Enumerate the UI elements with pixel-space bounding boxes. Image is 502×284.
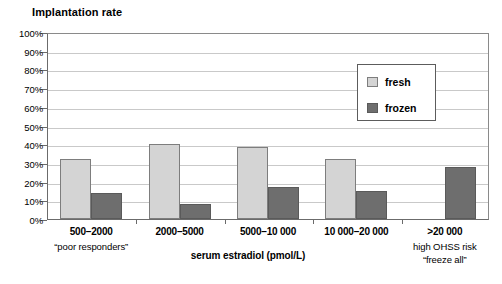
y-axis-tick-label: 70% [24,84,43,95]
plot-area [47,33,489,220]
x-axis-category-label: >20 000 [427,226,462,237]
y-axis-tick-label: 80% [24,65,43,76]
implantation-rate-bar-chart: Implantation rate freshfrozen serum estr… [0,0,502,284]
gridline [48,165,488,166]
bar-frozen-5 [445,167,476,219]
legend-label: fresh [385,76,411,88]
y-axis-tick-label: 0% [29,215,43,226]
x-axis-category-sublabel: high OHSS risk [413,241,477,252]
bar-frozen-3 [268,187,299,219]
x-axis-title: serum estradiol (pmol/L) [191,250,305,261]
gridline [48,53,488,54]
y-axis-tick-label: 40% [24,140,43,151]
x-axis-category-label: 5000–10 000 [240,226,296,237]
y-axis-tick-label: 20% [24,177,43,188]
bar-frozen-1 [91,193,122,219]
y-axis-tick-label: 60% [24,102,43,113]
chart-legend: freshfrozen [357,64,436,121]
y-axis-tick-label: 10% [24,196,43,207]
y-axis-tick-label: 90% [24,46,43,57]
y-axis-tick-label: 100% [19,28,43,39]
x-axis-category-label: 2000–5000 [155,226,203,237]
x-axis-category-sublabel: “poor responders” [54,241,128,252]
y-axis-tick-label: 50% [24,121,43,132]
x-axis-tick-mark [402,219,403,224]
bar-frozen-2 [180,204,211,219]
x-axis-category-sublabel: “freeze all” [423,254,467,265]
gridline [48,146,488,147]
gridline [48,184,488,185]
bar-fresh-3 [237,147,268,219]
bar-fresh-2 [149,144,180,219]
bar-frozen-4 [356,191,387,219]
legend-swatch-frozen [367,103,378,113]
x-axis-tick-mark [136,219,137,224]
x-axis-tick-mark [313,219,314,224]
x-axis-category-label: 10 000–20 000 [324,226,388,237]
legend-item-fresh: fresh [367,76,411,88]
bar-fresh-1 [60,159,91,219]
bar-fresh-4 [325,159,356,219]
legend-label: frozen [385,102,417,114]
x-axis-category-label: 500–2000 [70,226,113,237]
gridline [48,128,488,129]
y-axis-tick-label: 30% [24,158,43,169]
chart-title: Implantation rate [32,6,122,18]
legend-item-frozen: frozen [367,102,417,114]
x-axis-tick-mark [225,219,226,224]
legend-swatch-fresh [367,77,378,87]
